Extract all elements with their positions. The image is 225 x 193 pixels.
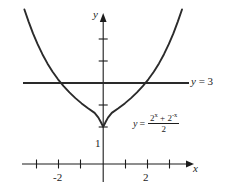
curve-equation-label: y = 2x + 2-x 2 [133, 113, 179, 135]
x-tick-label-positive-2: 2 [143, 172, 149, 183]
curve-label-equals: = [139, 119, 145, 129]
x-tick-label-negative-2: -2 [53, 172, 62, 183]
line-label-value: 3 [208, 75, 214, 87]
x-axis [22, 160, 194, 169]
numerator-plus: + [158, 113, 168, 123]
graph-figure: y x -2 2 1 y = 3 y = 2x + 2-x 2 [0, 0, 225, 193]
x-axis-label: x [193, 163, 198, 174]
fraction-denominator: 2 [159, 124, 168, 134]
fraction-numerator: 2x + 2-x [148, 113, 179, 124]
curve-label-variable: y [133, 119, 137, 129]
vertex-value-label: 1 [95, 138, 101, 149]
numerator-exponent-2: -x [172, 111, 177, 118]
plot-canvas [0, 0, 225, 193]
y-axis-label: y [93, 9, 98, 20]
line-label-equals: = [196, 75, 208, 87]
y-axis [99, 13, 108, 182]
y-axis-arrowhead [100, 13, 107, 22]
curve-label-fraction: 2x + 2-x 2 [148, 113, 179, 135]
line-equation-label: y = 3 [191, 76, 213, 87]
